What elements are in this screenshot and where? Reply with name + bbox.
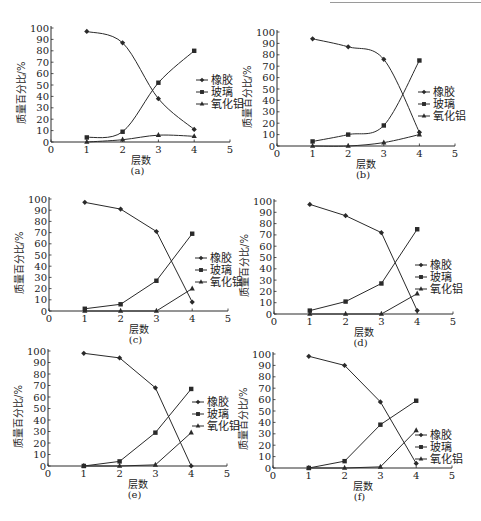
y-tick-label: 50 <box>259 252 272 263</box>
legend-label: 橡胶 <box>433 85 455 99</box>
y-tick-label: 80 <box>258 371 271 382</box>
x-tick-label: 2 <box>341 470 347 481</box>
y-tick-label: 20 <box>258 440 271 451</box>
diamond-marker <box>379 230 384 235</box>
y-tick-label: 60 <box>259 241 272 252</box>
y-tick-label: 40 <box>258 417 271 428</box>
x-tick-label: 0 <box>46 313 52 324</box>
y-tick-label: 90 <box>262 38 275 49</box>
y-tick-label: 40 <box>262 95 275 106</box>
y-tick-label: 40 <box>33 415 46 426</box>
series-line <box>310 294 417 314</box>
chart-panel-b: 0102030405060708090100012345层数质量百分比/%(b)… <box>242 27 466 181</box>
diamond-marker <box>190 299 195 304</box>
square-marker <box>378 422 382 426</box>
x-tick-label: 3 <box>381 148 387 159</box>
diamond-marker <box>415 308 420 313</box>
y-tick-label: 50 <box>36 80 49 91</box>
legend-label: 玻璃 <box>211 85 233 99</box>
y-tick-label: 30 <box>258 428 271 439</box>
x-tick-label: 5 <box>452 148 458 159</box>
legend-label: 玻璃 <box>430 440 452 454</box>
triangle-marker <box>199 279 204 283</box>
diamond-marker <box>310 36 315 41</box>
square-marker <box>414 399 418 403</box>
triangle-marker <box>415 291 420 296</box>
x-tick-label: 3 <box>377 470 383 481</box>
square-marker <box>200 90 204 94</box>
legend-label: 橡胶 <box>211 73 233 87</box>
y-tick-label: 30 <box>259 275 272 286</box>
diamond-marker <box>419 263 424 268</box>
x-tick-label: 4 <box>191 144 197 155</box>
x-tick-label: 3 <box>155 144 161 155</box>
diamond-marker <box>200 78 205 83</box>
y-tick-label: 20 <box>259 286 272 297</box>
y-tick-label: 80 <box>262 49 275 60</box>
series-line <box>310 204 417 310</box>
y-tick-label: 100 <box>253 196 272 207</box>
square-marker <box>156 81 160 85</box>
y-tick-label: 20 <box>262 118 275 129</box>
legend-label: 氧化铝 <box>207 419 240 433</box>
legend-label: 橡胶 <box>210 251 232 265</box>
x-tick-label: 5 <box>450 316 456 327</box>
square-marker <box>419 445 423 449</box>
y-tick-label: 10 <box>36 125 49 136</box>
y-tick-label: 60 <box>258 394 271 405</box>
chart-panel-d: 0102030405060708090100012345层数质量百分比/%(d)… <box>239 196 463 349</box>
y-tick-label: 70 <box>33 380 46 391</box>
triangle-marker <box>117 463 122 468</box>
y-tick-label: 80 <box>259 218 272 229</box>
y-tick-label: 80 <box>36 45 49 56</box>
x-tick-label: 0 <box>45 468 51 479</box>
diamond-marker <box>343 213 348 218</box>
panel-caption: (a) <box>131 165 145 176</box>
x-tick-label: 3 <box>152 468 158 479</box>
x-tick-label: 4 <box>189 313 195 324</box>
y-axis-label: 质量百分比/% <box>14 232 25 295</box>
x-tick-label: 5 <box>225 313 231 324</box>
series-line <box>310 229 417 310</box>
chart-panel-a: 0102030405060708090100012345层数质量百分比/%(a)… <box>16 23 244 177</box>
legend: 橡胶玻璃氧化铝 <box>195 251 243 289</box>
panel-caption: (c) <box>129 334 143 345</box>
legend: 橡胶玻璃氧化铝 <box>196 73 244 111</box>
chart-panel-f: 0102030405060708090100012345层数质量百分比/%(f)… <box>238 349 463 503</box>
x-tick-label: 0 <box>48 144 54 155</box>
y-tick-label: 60 <box>36 68 49 79</box>
panel-caption: (d) <box>353 337 367 348</box>
diamond-marker <box>118 206 123 211</box>
legend-label: 橡胶 <box>430 428 452 442</box>
legend: 橡胶玻璃氧化铝 <box>192 395 240 433</box>
y-axis-label: 质量百分比/% <box>239 234 250 297</box>
y-tick-label: 80 <box>34 216 47 227</box>
diamond-marker <box>196 400 201 405</box>
triangle-marker <box>200 101 205 105</box>
legend-label: 氧化铝 <box>430 282 463 296</box>
x-tick-label: 0 <box>271 316 277 327</box>
diamond-marker <box>307 202 312 207</box>
square-marker <box>154 279 158 283</box>
x-tick-label: 4 <box>413 470 419 481</box>
triangle-marker <box>153 462 158 467</box>
y-axis-label: 质量百分比/% <box>242 66 253 129</box>
y-axis-label: 质量百分比/% <box>238 388 249 451</box>
y-tick-label: 90 <box>258 360 271 371</box>
square-marker <box>422 102 426 106</box>
figure-panels: 0102030405060708090100012345层数质量百分比/%(a)… <box>0 0 481 521</box>
x-tick-label: 1 <box>309 148 315 159</box>
x-tick-label: 5 <box>224 468 230 479</box>
y-tick-label: 40 <box>36 91 49 102</box>
chart-panel-c: 0102030405060708090100012345层数质量百分比/%(c)… <box>14 194 243 346</box>
x-tick-label: 1 <box>84 144 90 155</box>
x-tick-label: 2 <box>116 468 122 479</box>
legend: 橡胶玻璃氧化铝 <box>415 258 463 296</box>
x-tick-label: 2 <box>342 316 348 327</box>
square-marker <box>196 412 200 416</box>
series-line <box>85 202 192 302</box>
diamond-marker <box>422 90 427 95</box>
series-line <box>313 61 420 142</box>
legend: 橡胶玻璃氧化铝 <box>418 85 466 123</box>
triangle-marker <box>190 286 195 291</box>
